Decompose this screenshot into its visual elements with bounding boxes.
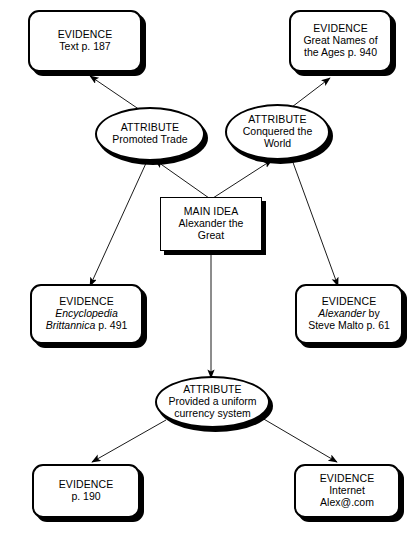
- edge-trade-to-evidence-encyclopedia: [90, 161, 147, 286]
- node-text-line-2-italic-part: Brittannica: [46, 319, 96, 331]
- node-text-line-2: Great: [198, 230, 224, 242]
- edge-main-to-trade: [155, 160, 209, 198]
- node-attribute-conquered-world[interactable]: ATTRIBUTE Conquered the World: [225, 104, 330, 160]
- node-text-line-2: Brittannica p. 491: [46, 320, 128, 332]
- edge-main-to-conquered: [213, 160, 272, 198]
- node-text-line-2: Alex@.com: [320, 497, 374, 509]
- connector-layer: [0, 0, 412, 541]
- node-text-line-1-italic-part: Alexander: [318, 307, 365, 319]
- edge-currency-to-evidence-internet: [262, 418, 337, 462]
- node-evidence-text[interactable]: EVIDENCE Text p. 187: [28, 10, 142, 72]
- node-text-line-1: p. 190: [71, 491, 100, 503]
- node-evidence-great-names[interactable]: EVIDENCE Great Names of the Ages p. 940: [289, 10, 392, 72]
- node-evidence-encyclopedia[interactable]: EVIDENCE Encyclopedia Brittannica p. 491: [30, 284, 143, 344]
- node-text-line-2: currency system: [174, 408, 250, 420]
- node-text-line-1: Promoted Trade: [112, 134, 187, 146]
- node-text-line-2: Steve Malto p. 61: [308, 320, 390, 332]
- node-attribute-currency-system[interactable]: ATTRIBUTE Provided a uniform currency sy…: [155, 376, 270, 428]
- node-text-line-2: World: [264, 138, 291, 150]
- node-evidence-internet[interactable]: EVIDENCE Internet Alex@.com: [294, 464, 400, 518]
- edge-conquered-to-evidence-alexander-book: [291, 157, 338, 286]
- node-text-line-1-roman-part: by: [366, 307, 380, 319]
- node-main-idea[interactable]: MAIN IDEA Alexander the Great: [160, 197, 262, 251]
- node-text-line-1: Text p. 187: [59, 41, 110, 53]
- node-evidence-p190[interactable]: EVIDENCE p. 190: [32, 464, 140, 518]
- edge-trade-to-evidence-text: [90, 76, 143, 112]
- node-evidence-alexander-book[interactable]: EVIDENCE Alexander by Steve Malto p. 61: [295, 284, 403, 344]
- node-text-line-2-roman-part: p. 491: [95, 319, 127, 331]
- edge-currency-to-evidence-p190: [92, 420, 166, 462]
- idea-web-diagram: EVIDENCE Text p. 187 EVIDENCE Great Name…: [0, 0, 412, 541]
- node-text-line-2: the Ages p. 940: [304, 47, 377, 59]
- node-attribute-promoted-trade[interactable]: ATTRIBUTE Promoted Trade: [95, 107, 205, 161]
